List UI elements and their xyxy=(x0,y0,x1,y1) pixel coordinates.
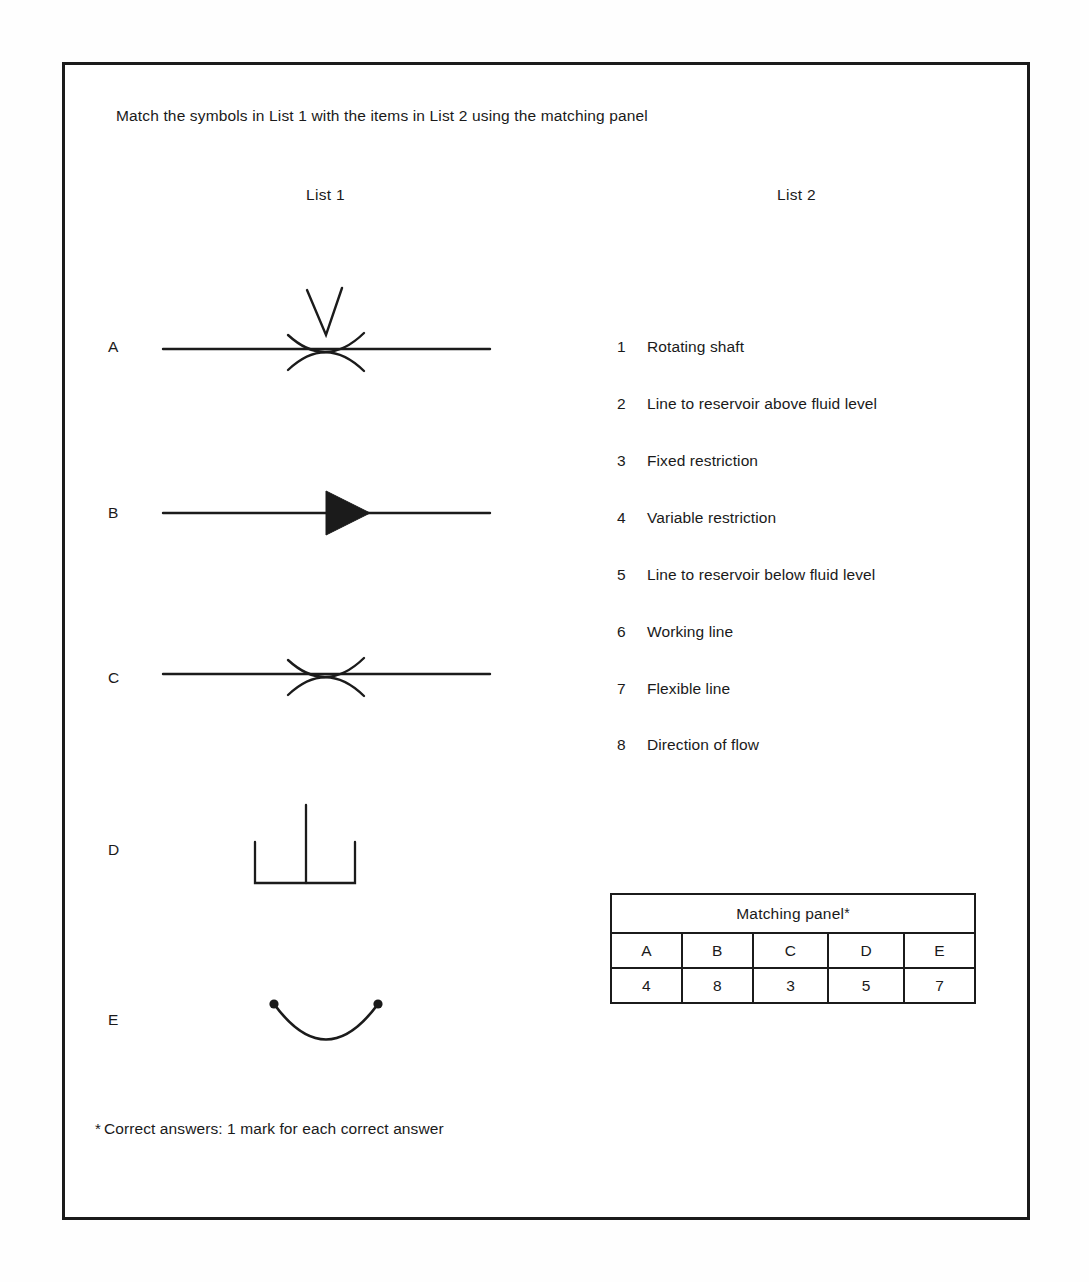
matching-panel-answer-d[interactable]: 5 xyxy=(828,968,904,1003)
symbol-letter-b: B xyxy=(108,504,128,522)
footnote-marker-icon: * xyxy=(844,905,850,921)
list2-item-number: 5 xyxy=(617,566,647,584)
list2-item-label: Fixed restriction xyxy=(647,452,758,470)
footnote-marker-icon: * xyxy=(95,1120,101,1137)
list2-item-label: Variable restriction xyxy=(647,509,776,527)
list2-item-number: 4 xyxy=(617,509,647,527)
matching-panel-title-row: Matching panel* xyxy=(611,894,975,933)
list2-item-number: 6 xyxy=(617,623,647,641)
list2-item-5: 5Line to reservoir below fluid level xyxy=(617,566,875,584)
list2-item-label: Line to reservoir above fluid level xyxy=(647,395,877,413)
list2-item-6: 6Working line xyxy=(617,623,733,641)
symbol-letter-a: A xyxy=(108,338,128,356)
matching-panel-answer-a[interactable]: 4 xyxy=(611,968,682,1003)
list2-item-label: Direction of flow xyxy=(647,736,759,754)
symbol-letter-e: E xyxy=(108,1011,128,1029)
matching-panel-answer-b[interactable]: 8 xyxy=(682,968,753,1003)
symbol-letter-c: C xyxy=(108,669,128,687)
list1-header: List 1 xyxy=(306,186,345,204)
matching-panel-header-d: D xyxy=(828,933,904,968)
instruction-text: Match the symbols in List 1 with the ite… xyxy=(116,107,648,125)
matching-panel-table: Matching panel* A B C D E 4 8 3 5 7 xyxy=(610,893,976,1004)
list2-item-4: 4Variable restriction xyxy=(617,509,776,527)
document-page: Match the symbols in List 1 with the ite… xyxy=(0,0,1089,1282)
list2-item-3: 3Fixed restriction xyxy=(617,452,758,470)
matching-panel-header-row: A B C D E xyxy=(611,933,975,968)
matching-panel-title-cell: Matching panel* xyxy=(611,894,975,933)
matching-panel-answer-c[interactable]: 3 xyxy=(753,968,829,1003)
fixed-restriction-symbol-icon xyxy=(150,638,510,713)
list2-item-label: Line to reservoir below fluid level xyxy=(647,566,875,584)
list2-item-number: 8 xyxy=(617,736,647,754)
matching-panel-answer-row: 4 8 3 5 7 xyxy=(611,968,975,1003)
list2-item-number: 7 xyxy=(617,680,647,698)
list2-item-1: 1Rotating shaft xyxy=(617,338,744,356)
direction-of-flow-symbol-icon xyxy=(150,480,510,540)
flexible-line-symbol-icon xyxy=(150,965,510,1055)
symbol-letter-d: D xyxy=(108,841,128,859)
matching-panel-title: Matching panel xyxy=(736,905,844,922)
list2-header: List 2 xyxy=(777,186,816,204)
matching-panel-header-a: A xyxy=(611,933,682,968)
list2-item-label: Working line xyxy=(647,623,733,641)
list2-item-number: 2 xyxy=(617,395,647,413)
variable-restriction-symbol-icon xyxy=(150,278,510,383)
matching-panel-answer-e[interactable]: 7 xyxy=(904,968,975,1003)
matching-panel-header-b: B xyxy=(682,933,753,968)
reservoir-below-fluid-level-symbol-icon xyxy=(150,800,510,900)
list2-item-label: Flexible line xyxy=(647,680,730,698)
footnote: *Correct answers: 1 mark for each correc… xyxy=(95,1120,444,1138)
list2-item-number: 3 xyxy=(617,452,647,470)
list2-item-label: Rotating shaft xyxy=(647,338,744,356)
list2-item-2: 2Line to reservoir above fluid level xyxy=(617,395,877,413)
matching-panel-header-e: E xyxy=(904,933,975,968)
list2-item-7: 7Flexible line xyxy=(617,680,730,698)
matching-panel-header-c: C xyxy=(753,933,829,968)
list2-item-8: 8Direction of flow xyxy=(617,736,759,754)
list2-item-number: 1 xyxy=(617,338,647,356)
footnote-text: Correct answers: 1 mark for each correct… xyxy=(104,1120,444,1137)
